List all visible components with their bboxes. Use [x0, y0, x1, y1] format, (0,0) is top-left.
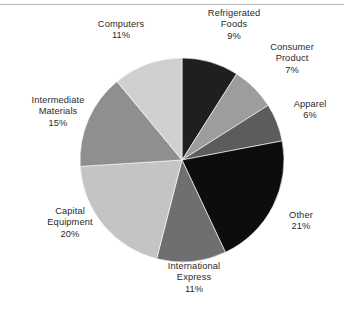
slice-label-other: Other 21% — [272, 210, 330, 233]
slice-label-name-line2: Product — [246, 53, 338, 64]
slice-label-percent: 9% — [186, 31, 282, 42]
slice-label-name-line2: Equipment — [27, 217, 113, 228]
chart-plot-area: Refrigerated Foods 9% Consumer Product 7… — [0, 0, 344, 315]
slice-label-name-line2: Foods — [186, 19, 282, 30]
slice-label-percent: 6% — [278, 110, 342, 121]
slice-label-percent: 21% — [272, 221, 330, 232]
slice-label-name-line1: Apparel — [278, 99, 342, 110]
slice-label-consumer-product: Consumer Product 7% — [246, 42, 338, 76]
slice-label-computers: Computers 11% — [82, 19, 160, 42]
slice-label-name-line2: Materials — [12, 106, 104, 117]
pie-chart-figure: Refrigerated Foods 9% Consumer Product 7… — [0, 0, 344, 315]
slice-label-apparel: Apparel 6% — [278, 99, 342, 122]
slice-label-name-line1: Refrigerated — [186, 8, 282, 19]
slice-label-name-line1: International — [143, 261, 245, 272]
slice-label-refrigerated-foods: Refrigerated Foods 9% — [186, 8, 282, 42]
slice-label-name-line1: Consumer — [246, 42, 338, 53]
slice-label-name-line1: Intermediate — [12, 95, 104, 106]
slice-label-percent: 7% — [246, 65, 338, 76]
slice-label-percent: 15% — [12, 118, 104, 129]
slice-label-percent: 20% — [27, 229, 113, 240]
slice-label-name-line1: Capital — [27, 206, 113, 217]
slice-label-name-line2: Express — [143, 272, 245, 283]
slice-label-intermediate-materials: Intermediate Materials 15% — [12, 95, 104, 129]
slice-label-name-line1: Other — [272, 210, 330, 221]
slice-label-capital-equipment: Capital Equipment 20% — [27, 206, 113, 240]
slice-label-international-express: International Express 11% — [143, 261, 245, 295]
slice-label-name-line1: Computers — [82, 19, 160, 30]
slice-label-percent: 11% — [82, 30, 160, 41]
slice-label-percent: 11% — [143, 284, 245, 295]
